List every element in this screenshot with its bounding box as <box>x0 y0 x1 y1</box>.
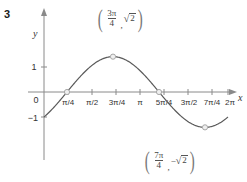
right-paren: ) <box>189 148 194 173</box>
curve-point-marker <box>156 89 161 94</box>
x-tick-label-2pi: 2π <box>225 98 235 107</box>
left-paren: ( <box>145 148 150 173</box>
x-tick-label-pi-2: π/2 <box>86 98 99 107</box>
y-axis-arrow-icon <box>41 8 47 16</box>
graph-figure: 3 y x π/4 π/2 3π/4 π 5π/4 3π/2 7π/4 2π <box>0 0 247 182</box>
min-point-annotation: ( 7π 4 , − √ 2 ) <box>143 148 196 173</box>
right-paren: ) <box>137 6 142 31</box>
curve-point-marker <box>202 125 207 130</box>
max-point-annotation: ( 3π 4 , √ 2 ) <box>96 6 144 31</box>
curve-point-marker <box>110 54 115 59</box>
x-tick-label-pi-4: π/4 <box>62 98 75 107</box>
y-axis-label: y <box>32 28 38 39</box>
x-tick-label-3pi-2: 3π/2 <box>181 98 198 107</box>
x-tick-label-7pi-4: 7π/4 <box>204 98 221 107</box>
y-tick-label-neg1: −1 <box>28 113 38 123</box>
min-y-radical: √ 2 <box>176 155 188 166</box>
x-tick-label-3pi-4: 3π/4 <box>109 98 126 107</box>
curve-point-marker <box>64 89 69 94</box>
x-tick-label-pi: π <box>137 98 143 107</box>
min-x-fraction: 7π 4 <box>152 151 165 171</box>
x-axis-arrow-icon <box>229 89 237 95</box>
min-separator: , <box>167 162 169 173</box>
y-tick-label-1: 1 <box>31 62 36 72</box>
max-y-radical: √ 2 <box>124 13 136 24</box>
problem-number: 3 <box>4 8 10 20</box>
x-axis-label: x <box>237 92 243 103</box>
max-x-fraction: 3π 4 <box>105 9 118 29</box>
max-separator: , <box>120 20 122 31</box>
y-tick-label-0: 0 <box>33 95 38 105</box>
left-paren: ( <box>98 6 103 31</box>
